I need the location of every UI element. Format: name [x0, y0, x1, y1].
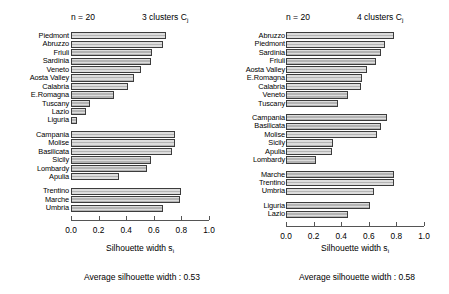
bar-row	[71, 100, 209, 108]
x-axis-tick	[71, 216, 72, 220]
bar-row	[286, 40, 424, 48]
category-label: Calabria	[3, 83, 69, 90]
category-labels-right: AbruzzoPiedmontSardiniaFriuliAosta Valle…	[225, 32, 285, 219]
silhouette-bar	[71, 100, 90, 107]
silhouette-bar	[71, 117, 77, 124]
category-labels-left: PiedmontAbruzzoFriuliSardiniaVenetoAosta…	[3, 32, 69, 213]
silhouette-bar	[286, 91, 348, 98]
x-axis-tick	[209, 216, 210, 220]
bar-row	[71, 196, 209, 204]
category-label: Lombardy	[3, 165, 69, 172]
bar-row	[71, 116, 209, 124]
bar-row	[71, 91, 209, 99]
silhouette-bar	[286, 49, 381, 56]
category-label: Marche	[3, 196, 69, 203]
silhouette-bar	[286, 202, 370, 209]
bar-row	[71, 131, 209, 139]
category-label: Molise	[3, 139, 69, 146]
silhouette-bar	[71, 58, 151, 65]
bar-row	[286, 74, 424, 82]
bars-right	[286, 32, 424, 219]
silhouette-bar	[286, 156, 316, 163]
bar-row	[286, 202, 424, 210]
x-axis-title-text-left: Silhouette width s	[106, 243, 173, 253]
x-axis-title-text-right: Silhouette width s	[321, 243, 388, 253]
bar-row	[71, 173, 209, 181]
silhouette-bar	[71, 41, 163, 48]
x-axis-tick	[424, 222, 425, 226]
sample-size-label-left: n = 20	[71, 12, 95, 22]
category-label: Trentino	[225, 179, 285, 186]
bar-row	[71, 49, 209, 57]
bar-row	[286, 100, 424, 108]
x-axis-title-subscript-left: i	[173, 247, 174, 254]
x-axis-tick-label: 0.0	[65, 225, 77, 235]
x-axis-tick-label: 0.4	[120, 225, 132, 235]
bar-row	[71, 139, 209, 147]
silhouette-bar	[71, 108, 86, 115]
bar-row	[71, 204, 209, 212]
x-axis-title-right: Silhouette width si	[321, 243, 389, 254]
silhouette-bar	[286, 41, 385, 48]
category-label: Piedmont	[3, 32, 69, 39]
category-label: Basilicata	[3, 148, 69, 155]
panel-3-clusters: n = 20 3 clusters Cj PiedmontAbruzzoFriu…	[0, 0, 224, 294]
x-axis-tick	[314, 222, 315, 226]
average-silhouette-width-left: Average silhouette width : 0.53	[84, 272, 200, 282]
bar-row	[286, 83, 424, 91]
bar-row	[286, 148, 424, 156]
cluster-count-label-left: 3 clusters Cj	[142, 12, 188, 23]
category-label: Apulia	[225, 148, 285, 155]
x-axis-title-subscript-right: i	[388, 247, 389, 254]
panel-header-right: n = 20 4 clusters Cj	[225, 12, 449, 26]
silhouette-bar	[71, 83, 128, 90]
bar-row	[286, 32, 424, 40]
silhouette-bar	[286, 131, 377, 138]
bar-row	[71, 108, 209, 116]
category-label: Abruzzo	[225, 32, 285, 39]
category-label: Campania	[3, 131, 69, 138]
bar-row	[71, 156, 209, 164]
bar-row	[71, 148, 209, 156]
category-label: Aosta Valley	[225, 66, 285, 73]
x-axis-tick	[99, 216, 100, 220]
x-axis-tick-label: 0.6	[363, 231, 375, 241]
category-label: Sardinia	[225, 49, 285, 56]
category-label-row: Tuscany	[225, 100, 285, 108]
silhouette-bar	[286, 32, 394, 39]
category-label: Aosta Valley	[3, 74, 69, 81]
silhouette-bar	[71, 66, 141, 73]
category-label: Apulia	[3, 173, 69, 180]
x-axis-tick-label: 1.0	[203, 225, 215, 235]
average-silhouette-width-right: Average silhouette width : 0.58	[299, 272, 415, 282]
category-label: Sicily	[3, 156, 69, 163]
silhouette-bar	[286, 179, 394, 186]
bars-left	[71, 32, 209, 213]
silhouette-bar	[71, 91, 114, 98]
category-label: Umbria	[3, 204, 69, 211]
x-axis-line	[286, 226, 424, 227]
silhouette-bar	[71, 131, 175, 138]
category-label: Basilicata	[225, 122, 285, 129]
x-axis-tick	[341, 222, 342, 226]
silhouette-bar	[71, 139, 175, 146]
category-label: Abruzzo	[3, 40, 69, 47]
panel-4-clusters: n = 20 4 clusters Cj AbruzzoPiedmontSard…	[225, 0, 449, 294]
silhouette-figure: n = 20 3 clusters Cj PiedmontAbruzzoFriu…	[0, 0, 449, 294]
category-label: Friuli	[225, 57, 285, 64]
bar-row	[71, 32, 209, 40]
silhouette-bar	[71, 173, 119, 180]
silhouette-bar	[286, 66, 367, 73]
x-axis-tick	[396, 222, 397, 226]
silhouette-bar	[286, 114, 387, 121]
x-axis-tick-label: 1.0	[418, 231, 430, 241]
silhouette-bar	[286, 123, 381, 130]
category-label-row: Umbria	[225, 187, 285, 195]
panel-header-left: n = 20 3 clusters Cj	[0, 12, 224, 26]
category-label: Piedmont	[225, 40, 285, 47]
bar-row	[286, 187, 424, 195]
silhouette-bar	[71, 205, 163, 212]
silhouette-bar	[286, 211, 348, 218]
category-label: Trentino	[3, 187, 69, 194]
bar-row	[71, 66, 209, 74]
